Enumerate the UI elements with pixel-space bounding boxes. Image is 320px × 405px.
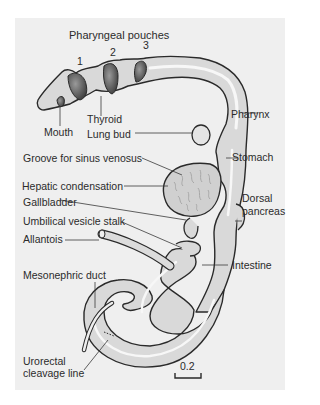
label-mesonephric-duct: Mesonephric duct (23, 269, 106, 281)
scale-bar (175, 373, 201, 378)
label-dorsal-pancreas-line2: pancreas (242, 205, 285, 217)
pouch-number-3: 3 (143, 39, 149, 51)
lung-bud (192, 125, 210, 145)
label-intestine: Intestine (232, 259, 272, 271)
pouch-number-1: 1 (77, 55, 83, 67)
label-dorsal-pancreas-line1: Dorsal (242, 192, 272, 204)
pouch-number-2: 2 (110, 46, 116, 58)
label-umbilical-vesicle-stalk: Umbilical vesicle stalk (23, 215, 125, 227)
label-groove-sinus-venosus: Groove for sinus venosus (23, 152, 142, 164)
mouth-opening (57, 97, 64, 107)
scale-bar-label: 0.2 (180, 360, 195, 372)
label-lung-bud: Lung bud (87, 128, 131, 140)
label-urorectal-line2: cleavage line (23, 367, 84, 379)
label-urorectal-line1: Urorectal (23, 355, 66, 367)
label-gallbladder: Gallbladder (23, 196, 77, 208)
label-stomach: Stomach (232, 151, 273, 163)
label-mouth: Mouth (44, 126, 73, 138)
allantois-opening (99, 230, 105, 238)
label-thyroid: Thyroid (87, 113, 122, 125)
label-pharynx: Pharynx (231, 108, 270, 120)
pharyngeal-pouches-title: Pharyngeal pouches (69, 29, 169, 41)
gallbladder (184, 218, 198, 238)
hepatic-condensation (163, 163, 221, 216)
label-hepatic-condensation: Hepatic condensation (22, 180, 123, 192)
label-allantois: Allantois (23, 233, 63, 245)
